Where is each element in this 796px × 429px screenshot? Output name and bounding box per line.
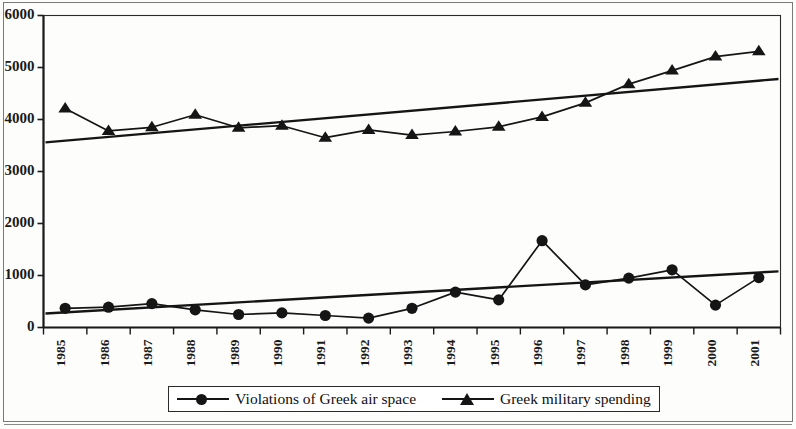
x-axis-tick-label: 1993 — [400, 339, 415, 366]
x-axis-tick-label: 1994 — [443, 339, 458, 366]
data-point-marker — [58, 102, 72, 113]
data-point-marker — [362, 123, 376, 134]
x-axis-tick-label: 1999 — [660, 339, 675, 366]
x-axis-tick-label: 1985 — [53, 339, 68, 366]
data-point-marker — [233, 309, 244, 320]
y-tick-group: 0100020003000400050006000 — [5, 6, 44, 334]
x-axis-tick-label: 1990 — [270, 339, 285, 366]
y-axis-tick-label: 2000 — [5, 214, 35, 230]
x-axis-tick-label: 1992 — [357, 339, 372, 366]
data-point-marker — [103, 302, 114, 313]
legend-label-violations: Violations of Greek air space — [235, 390, 416, 408]
data-point-marker — [537, 235, 548, 246]
data-point-marker — [60, 303, 71, 314]
data-point-marker — [146, 298, 157, 309]
y-axis-tick-label: 0 — [27, 318, 35, 334]
chart-figure: 0100020003000400050006000 19851986198719… — [0, 0, 796, 429]
legend-marker-triangle-icon — [442, 392, 494, 406]
data-point-marker — [406, 303, 417, 314]
x-axis-tick-label: 2001 — [747, 339, 762, 366]
data-point-marker — [188, 108, 202, 119]
data-point-marker — [667, 264, 678, 275]
y-axis-tick-label: 5000 — [5, 58, 35, 74]
trendline-group — [46, 79, 779, 314]
series-spending — [58, 45, 765, 142]
x-axis-tick-label: 1986 — [97, 339, 112, 366]
y-axis-tick-label: 1000 — [5, 266, 35, 282]
axis-group — [44, 16, 781, 328]
data-point-marker — [363, 313, 374, 324]
data-point-marker — [623, 273, 634, 284]
x-axis-tick-label: 1987 — [140, 339, 155, 366]
y-axis-tick-label: 4000 — [5, 110, 35, 126]
y-axis-tick-label: 3000 — [5, 162, 35, 178]
legend-label-spending: Greek military spending — [500, 390, 651, 408]
data-point-marker — [752, 45, 766, 56]
x-axis-tick-label: 1997 — [573, 339, 588, 366]
line-chart-svg: 0100020003000400050006000 19851986198719… — [0, 0, 796, 429]
data-point-marker — [710, 300, 721, 311]
y-axis-tick-label: 6000 — [5, 6, 35, 22]
x-tick-group: 1985198619871988198919901991199219931994… — [44, 328, 781, 367]
x-axis-tick-label: 2000 — [704, 339, 719, 366]
legend-marker-circle-icon — [177, 392, 229, 406]
data-point-marker — [493, 294, 504, 305]
x-axis-tick-label: 1991 — [313, 339, 328, 366]
legend-item-spending[interactable]: Greek military spending — [442, 390, 651, 408]
chart-legend: Violations of Greek air space Greek mili… — [168, 386, 660, 412]
x-axis-tick-label: 1995 — [487, 339, 502, 366]
legend-item-violations[interactable]: Violations of Greek air space — [177, 390, 416, 408]
data-point-marker — [320, 310, 331, 321]
data-point-marker — [580, 279, 591, 290]
x-axis-tick-label: 1989 — [227, 339, 242, 366]
data-point-marker — [450, 287, 461, 298]
x-axis-tick-label: 1988 — [183, 339, 198, 366]
plot-area: 0100020003000400050006000 19851986198719… — [0, 0, 796, 429]
data-point-marker — [753, 272, 764, 283]
data-series-group — [58, 45, 765, 324]
data-point-marker — [276, 307, 287, 318]
data-point-marker — [190, 304, 201, 315]
x-axis-tick-label: 1996 — [530, 339, 545, 366]
x-axis-tick-label: 1998 — [617, 339, 632, 366]
